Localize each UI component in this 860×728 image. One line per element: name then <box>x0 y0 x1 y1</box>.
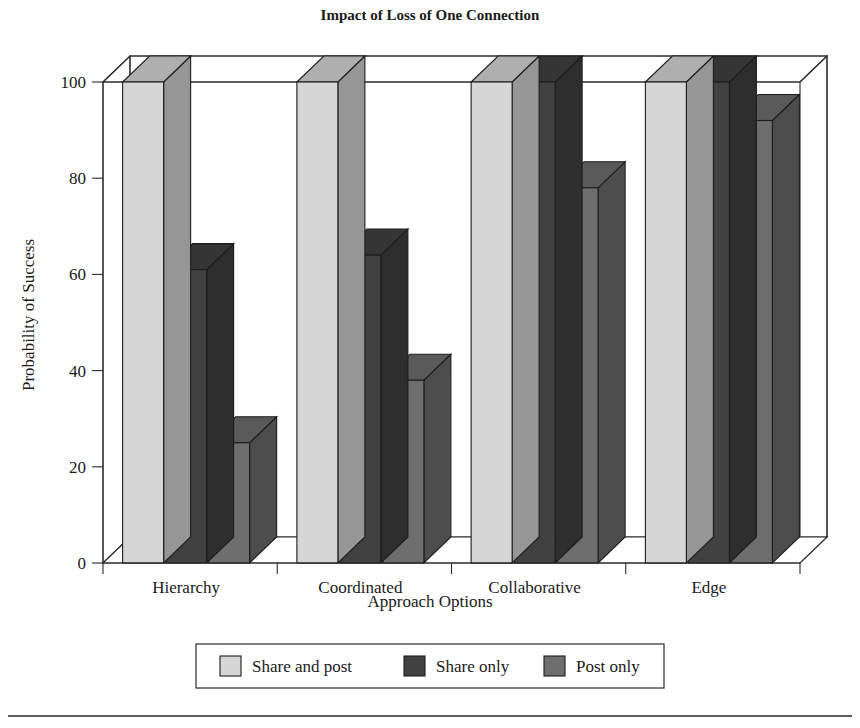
legend-item-label: Share only <box>436 657 510 676</box>
bar-side-face <box>512 56 539 563</box>
x-axis-ticks <box>103 563 800 574</box>
chart-figure: Impact of Loss of One Connection Probabi… <box>0 0 860 728</box>
y-axis-title: Probability of Success <box>19 239 38 391</box>
bar-side-face <box>555 56 582 563</box>
x-category-label: Hierarchy <box>152 578 220 597</box>
y-tick-label: 0 <box>78 554 87 573</box>
x-category-label: Collaborative <box>488 578 581 597</box>
bar-front-face <box>297 82 338 563</box>
bar-collaborative-0 <box>471 56 539 563</box>
bar-side-face <box>598 162 625 563</box>
legend-swatch-icon <box>220 656 241 676</box>
bar-edge-0 <box>645 56 713 563</box>
bar-side-face <box>424 354 451 563</box>
bar-side-face <box>207 244 234 563</box>
legend-item-label: Post only <box>576 657 640 676</box>
x-category-label: Edge <box>691 578 726 597</box>
y-tick-label: 60 <box>69 265 86 284</box>
x-category-label: Coordinated <box>318 578 403 597</box>
bar-side-face <box>686 56 713 563</box>
bar-front-face <box>123 82 164 563</box>
legend-item-2[interactable]: Post only <box>544 656 640 676</box>
y-tick-label: 80 <box>69 169 86 188</box>
bar-side-face <box>729 56 756 563</box>
right-wall <box>800 56 827 563</box>
legend-item-1[interactable]: Share only <box>404 656 510 676</box>
chart-legend[interactable]: Share and postShare onlyPost only <box>196 644 664 688</box>
bar-hierarchy-0 <box>123 56 191 563</box>
y-tick-label: 100 <box>61 73 87 92</box>
bar-side-face <box>164 56 191 563</box>
bar-side-face <box>338 56 365 563</box>
y-tick-label: 40 <box>69 362 86 381</box>
legend-swatch-icon <box>544 656 565 676</box>
bar-front-face <box>645 82 686 563</box>
legend-item-0[interactable]: Share and post <box>220 656 352 676</box>
chart-title: Impact of Loss of One Connection <box>321 7 540 23</box>
bar-coordinated-0 <box>297 56 365 563</box>
legend-swatch-icon <box>404 656 425 676</box>
bar-front-face <box>471 82 512 563</box>
bars-layer <box>123 56 800 563</box>
y-tick-label: 20 <box>69 458 86 477</box>
bar-side-face <box>381 229 408 563</box>
bar-side-face <box>772 94 799 563</box>
legend-item-label: Share and post <box>252 657 352 676</box>
